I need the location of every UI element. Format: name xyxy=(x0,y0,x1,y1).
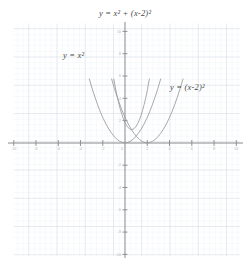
x-tick-label: 0 xyxy=(121,147,123,151)
x-tick-label: 2 xyxy=(146,147,148,151)
y-tick-label: -2 xyxy=(118,163,121,167)
y-tick-label: 2 xyxy=(119,119,121,123)
x-tick-label: -2 xyxy=(101,147,104,151)
x-tick-label: -8 xyxy=(34,147,37,151)
y-tick-label: 6 xyxy=(119,74,121,78)
label-x-squared-curve: y = x² xyxy=(63,51,84,60)
y-tick-label: 8 xyxy=(119,52,121,56)
x-tick-label: 8 xyxy=(213,147,215,151)
y-tick-label: -10 xyxy=(116,253,121,257)
x-tick-label: 10 xyxy=(234,147,238,151)
label-x-minus-2-squared-curve: y = (x-2)² xyxy=(170,83,205,92)
coordinate-plane: -10 -8 -6 -4 -2 0 2 4 6 8 10 10 8 6 4 2 … xyxy=(0,0,251,267)
y-tick-label: 10 xyxy=(117,30,121,34)
graph-figure: -10 -8 -6 -4 -2 0 2 4 6 8 10 10 8 6 4 2 … xyxy=(0,0,251,267)
x-tick-label: -4 xyxy=(79,147,82,151)
grid-group xyxy=(14,24,240,256)
x-tick-label: -10 xyxy=(11,147,16,151)
major-gridlines xyxy=(14,24,240,256)
y-tick-label: 4 xyxy=(119,97,121,101)
y-tick-label: -8 xyxy=(118,230,121,234)
x-tick-label: 6 xyxy=(191,147,193,151)
x-tick-label: 4 xyxy=(169,147,171,151)
y-tick-label: -4 xyxy=(118,186,121,190)
label-sum-curve: y = x² + (x-2)² xyxy=(99,9,151,18)
x-tick-label: -6 xyxy=(57,147,60,151)
y-tick-label: -6 xyxy=(118,208,121,212)
